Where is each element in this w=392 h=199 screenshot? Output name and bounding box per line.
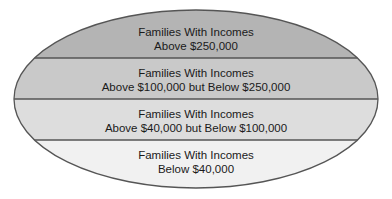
label-line2: Below $40,000 (0, 162, 392, 176)
label-40k-100k: Families With Incomes Above $40,000 but … (0, 107, 392, 135)
label-100k-250k: Families With Incomes Above $100,000 but… (0, 66, 392, 94)
label-line2: Above $40,000 but Below $100,000 (0, 121, 392, 135)
label-line2: Above $250,000 (0, 39, 392, 53)
label-line1: Families With Incomes (0, 107, 392, 121)
label-line1: Families With Incomes (0, 25, 392, 39)
label-line1: Families With Incomes (0, 148, 392, 162)
label-above-250k: Families With Incomes Above $250,000 (0, 25, 392, 53)
label-below-40k: Families With Incomes Below $40,000 (0, 148, 392, 176)
label-line2: Above $100,000 but Below $250,000 (0, 80, 392, 94)
label-line1: Families With Incomes (0, 66, 392, 80)
